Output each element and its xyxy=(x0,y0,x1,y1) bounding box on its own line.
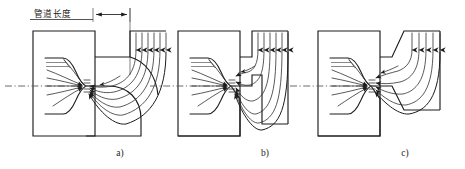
streamline xyxy=(376,50,419,84)
streamlines-a xyxy=(89,50,166,124)
inlet-arrows-c xyxy=(412,33,440,50)
panel-caption-b: b) xyxy=(250,148,280,158)
streamlines-c xyxy=(375,50,440,114)
valve-body-a xyxy=(33,31,95,136)
valve-body-c xyxy=(318,31,380,136)
panel-a xyxy=(5,8,166,136)
panel-caption-a: a) xyxy=(105,148,135,158)
panel-caption-c: c) xyxy=(390,148,420,158)
dimension-label-pipe-length: 管道长度 xyxy=(34,7,71,19)
inlet-arrows-b xyxy=(258,33,288,50)
streamline xyxy=(90,50,154,107)
streamline-recirc xyxy=(100,76,120,85)
duct-upper-wall-a xyxy=(95,31,166,57)
valve-body-b xyxy=(178,31,240,136)
streamline xyxy=(376,50,433,105)
streamline xyxy=(376,50,412,78)
diagram-canvas xyxy=(0,0,465,169)
streamline xyxy=(90,50,136,87)
inlet-arrows-a xyxy=(136,33,166,50)
flow-diagram-figure: 管道长度 a) b) c) xyxy=(0,0,465,169)
duct-upper-wall-c xyxy=(380,31,440,57)
panel-c xyxy=(290,31,440,136)
panel-b xyxy=(150,31,288,136)
